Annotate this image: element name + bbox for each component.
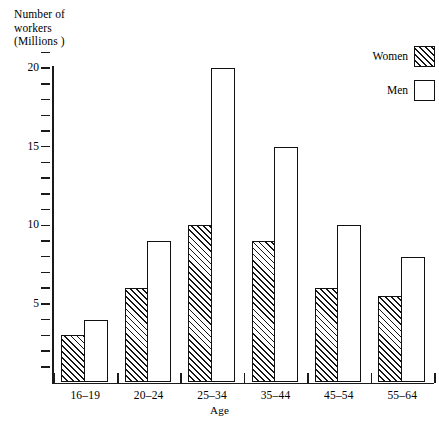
open-swatch — [414, 80, 435, 101]
bar-men — [401, 257, 425, 383]
bar-men — [147, 241, 171, 382]
bar-men — [274, 147, 298, 383]
bar-women — [125, 288, 149, 382]
x-axis-tick — [117, 373, 119, 383]
bar-men — [337, 225, 361, 382]
x-axis-tick — [54, 373, 56, 383]
bar-men — [84, 320, 108, 383]
legend-entry-men: Men — [340, 80, 435, 114]
legend-label-women: Women — [373, 50, 408, 62]
x-axis-category-label: 20–24 — [134, 389, 164, 401]
hatched-swatch — [414, 46, 435, 67]
x-axis-category-label: 45–54 — [324, 389, 354, 401]
bar-men — [211, 68, 235, 382]
bar-women — [378, 296, 402, 382]
bar-women — [188, 225, 212, 382]
bar-chart: Number of workers (Millions ) 5101520 16… — [0, 0, 439, 424]
bar-women — [252, 241, 276, 382]
x-axis-category-label: 35–44 — [261, 389, 291, 401]
x-axis-tick — [307, 373, 309, 383]
x-axis-category-label: 55–64 — [387, 389, 417, 401]
x-axis-tick — [371, 373, 373, 383]
x-axis-title: Age — [0, 404, 439, 416]
x-axis-tick — [244, 373, 246, 383]
x-axis-category-label: 16–19 — [70, 389, 100, 401]
legend-label-men: Men — [387, 84, 408, 96]
x-axis-tick — [180, 373, 182, 383]
bar-women — [61, 335, 85, 382]
x-axis-category-label: 25–34 — [197, 389, 227, 401]
x-axis-tick — [434, 373, 436, 383]
bar-women — [315, 288, 339, 382]
chart-legend: Women Men — [340, 46, 435, 114]
legend-entry-women: Women — [340, 46, 435, 80]
